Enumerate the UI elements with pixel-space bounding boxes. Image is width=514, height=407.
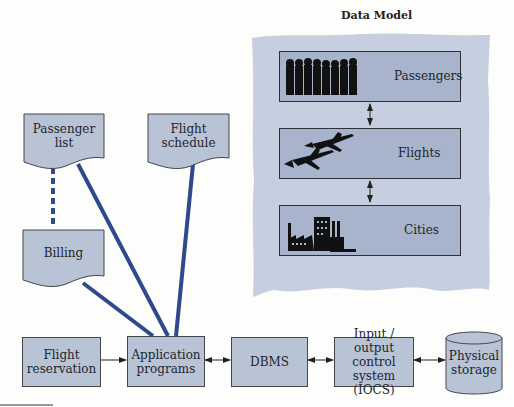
label-line: schedule (148, 136, 229, 150)
label-line: list (24, 136, 104, 150)
label-line: Flight (27, 348, 96, 362)
dbms-box: DBMS (231, 337, 308, 387)
factory-city-icon (286, 209, 366, 255)
entity-label: Flights (398, 146, 440, 160)
label-line: programs (131, 362, 200, 376)
label-line: (IOCS) (335, 383, 413, 397)
flight-reservation-box: Flight reservation (22, 337, 101, 387)
entity-flights: Flights (279, 128, 461, 179)
label-line: Application (131, 348, 200, 362)
entity-label: Passengers (394, 69, 463, 83)
entity-cities: Cities (279, 205, 461, 256)
application-programs-box: Application programs (127, 336, 205, 387)
label-line: storage (446, 363, 502, 377)
label-line: Billing (23, 246, 104, 260)
label-line: Physical (446, 349, 502, 363)
physical-storage-label: Physical storage (446, 349, 502, 377)
label-line: Input / output (335, 327, 413, 355)
label-line: Passenger (24, 122, 104, 136)
iocs-box: Input / output control system (IOCS) (334, 337, 414, 387)
label-line: DBMS (250, 355, 289, 369)
connector-flight-schedule (176, 164, 193, 336)
passenger-list-label: Passenger list (24, 122, 104, 150)
flight-schedule-label: Flight schedule (148, 122, 229, 150)
billing-label: Billing (23, 246, 104, 260)
airplanes-icon (282, 130, 362, 178)
label-line: control system (335, 355, 413, 383)
entity-passengers: Passengers (279, 51, 461, 102)
label-line: reservation (27, 362, 96, 376)
entity-label: Cities (404, 223, 439, 237)
people-silhouette-icon (284, 57, 364, 97)
label-line: Flight (148, 122, 229, 136)
data-model-title: Data Model (341, 9, 412, 22)
